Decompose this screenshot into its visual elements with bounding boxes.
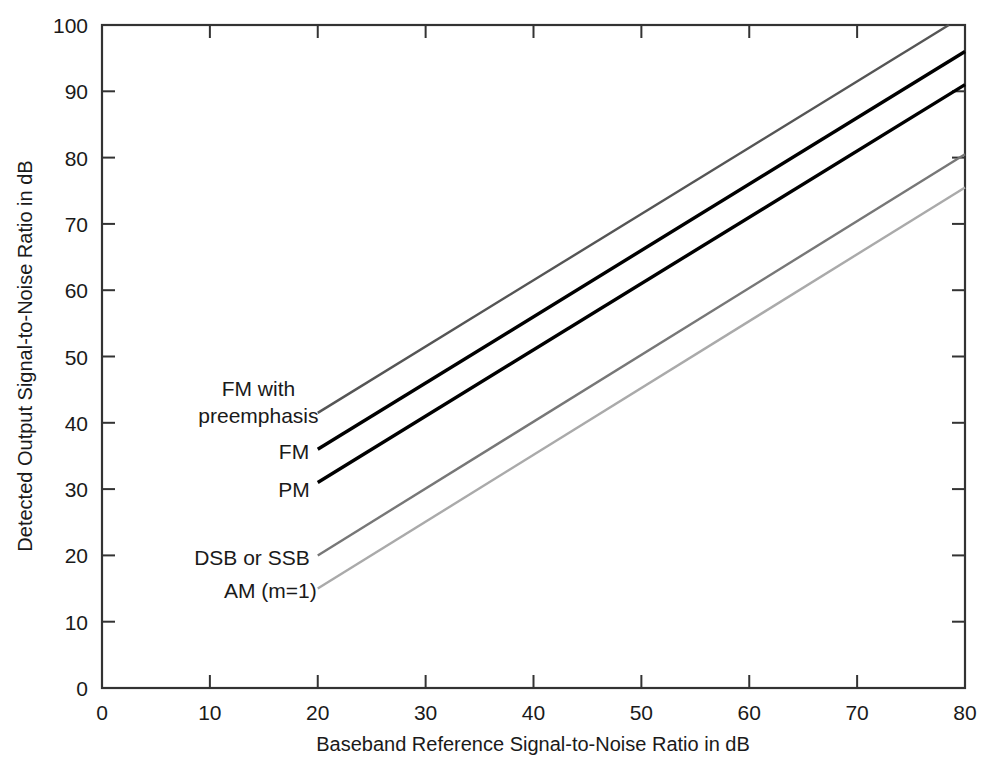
x-axis-title: Baseband Reference Signal-to-Noise Ratio… [316, 733, 750, 755]
series-annotation-5: AM (m=1) [224, 579, 317, 602]
chart-figure: 01020304050607080 0102030405060708090100… [0, 0, 999, 772]
series-annotation-2: FM [279, 440, 309, 463]
y-axis-tick-labels: 0102030405060708090100 [53, 14, 88, 700]
y-tick-label-100: 100 [53, 14, 88, 37]
series-annotation-4: DSB or SSB [194, 546, 310, 569]
x-tick-label-20: 20 [306, 701, 329, 724]
x-tick-label-50: 50 [630, 701, 653, 724]
x-tick-label-10: 10 [198, 701, 221, 724]
y-tick-label-90: 90 [65, 80, 88, 103]
line-chart: 01020304050607080 0102030405060708090100… [0, 0, 999, 772]
series-annotation-3: PM [278, 478, 310, 501]
x-tick-label-60: 60 [738, 701, 761, 724]
series-annotations: FM withpreemphasisFMPMDSB or SSBAM (m=1) [194, 377, 318, 602]
y-tick-label-40: 40 [65, 412, 88, 435]
y-tick-label-50: 50 [65, 346, 88, 369]
series-annotation-0: FM with [222, 377, 296, 400]
y-axis-ticks [102, 91, 965, 621]
x-tick-label-70: 70 [845, 701, 868, 724]
series-lines [318, 25, 965, 589]
y-tick-label-70: 70 [65, 213, 88, 236]
y-tick-label-80: 80 [65, 147, 88, 170]
x-tick-label-0: 0 [96, 701, 108, 724]
series-line-2 [318, 85, 965, 483]
x-axis-tick-labels: 01020304050607080 [96, 701, 977, 724]
x-tick-label-30: 30 [414, 701, 437, 724]
y-tick-label-0: 0 [76, 677, 88, 700]
x-tick-label-80: 80 [953, 701, 976, 724]
series-line-0 [318, 25, 949, 413]
y-tick-label-10: 10 [65, 611, 88, 634]
y-tick-label-60: 60 [65, 279, 88, 302]
series-annotation-1: preemphasis [198, 404, 318, 427]
series-line-1 [318, 52, 965, 450]
y-tick-label-30: 30 [65, 478, 88, 501]
y-axis-title: Detected Output Signal-to-Noise Ratio in… [14, 160, 36, 551]
x-tick-label-40: 40 [522, 701, 545, 724]
y-tick-label-20: 20 [65, 544, 88, 567]
